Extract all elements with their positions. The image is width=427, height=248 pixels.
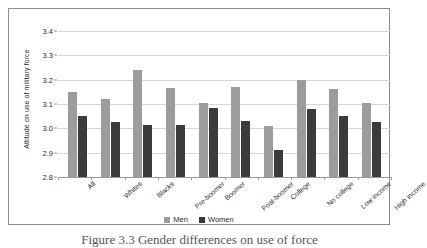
x-axis-label: Blacks bbox=[156, 180, 176, 199]
legend-swatch-icon bbox=[164, 217, 170, 223]
bar-women[interactable] bbox=[274, 150, 283, 177]
bar-men[interactable] bbox=[68, 92, 77, 177]
y-tick-mark bbox=[54, 55, 57, 56]
y-tick-mark bbox=[54, 177, 57, 178]
bar-women[interactable] bbox=[78, 116, 87, 177]
bar-women[interactable] bbox=[111, 122, 120, 177]
y-tick-mark bbox=[54, 31, 57, 32]
bar-group bbox=[159, 31, 192, 177]
bar-men[interactable] bbox=[133, 70, 142, 177]
bar-women[interactable] bbox=[143, 125, 152, 177]
y-tick-mark bbox=[54, 79, 57, 80]
bar-women[interactable] bbox=[307, 109, 316, 177]
legend-swatch-icon bbox=[199, 217, 205, 223]
chart-figure-frame: Attitude on use of military force 3.43.3… bbox=[8, 8, 390, 225]
x-axis-labels: AllWhitesBlacksPre-boomerBoomerPost-boom… bbox=[58, 180, 391, 214]
bar-men[interactable] bbox=[101, 99, 110, 177]
bar-women[interactable] bbox=[339, 116, 348, 177]
bar-men[interactable] bbox=[166, 88, 175, 177]
figure-caption: Figure 3.3 Gender differences on use of … bbox=[0, 232, 399, 248]
x-axis-label: Pre-boomer bbox=[193, 180, 225, 210]
y-tick-label: 2.9 bbox=[43, 148, 53, 157]
bar-women[interactable] bbox=[176, 125, 185, 177]
y-tick-mark bbox=[54, 104, 57, 105]
x-tick-mark bbox=[391, 177, 392, 180]
bar-women[interactable] bbox=[372, 122, 381, 177]
bar-men[interactable] bbox=[199, 103, 208, 177]
y-axis-title: Attitude on use of military force bbox=[21, 29, 33, 169]
y-tick-label: 3.3 bbox=[43, 51, 53, 60]
bar-men[interactable] bbox=[231, 87, 240, 177]
bar-groups-layer bbox=[58, 31, 391, 177]
bar-women[interactable] bbox=[241, 121, 250, 177]
x-axis-label: Whites bbox=[122, 180, 143, 200]
x-axis-label: Boomer bbox=[223, 180, 246, 202]
legend-label: Men bbox=[173, 215, 188, 224]
y-tick-mark bbox=[54, 128, 57, 129]
x-axis-label: All bbox=[86, 180, 96, 190]
x-axis-label: High income bbox=[393, 180, 427, 211]
x-axis-label: Low income bbox=[360, 180, 392, 210]
plot-area: 3.43.33.23.13.02.92.8 bbox=[58, 31, 391, 177]
y-tick-mark bbox=[54, 152, 57, 153]
y-tick-label: 3.1 bbox=[43, 100, 53, 109]
bar-group bbox=[355, 31, 388, 177]
legend-label: Women bbox=[208, 215, 234, 224]
y-tick-label: 2.8 bbox=[43, 173, 53, 182]
y-tick-label: 3.4 bbox=[43, 27, 53, 36]
bar-group bbox=[61, 31, 94, 177]
bar-men[interactable] bbox=[329, 89, 338, 177]
y-tick-label: 3.0 bbox=[43, 124, 53, 133]
bar-group bbox=[94, 31, 127, 177]
bar-men[interactable] bbox=[297, 80, 306, 177]
bar-group bbox=[192, 31, 225, 177]
legend-item-men[interactable]: Men bbox=[164, 215, 188, 224]
bar-group bbox=[290, 31, 323, 177]
bar-men[interactable] bbox=[264, 126, 273, 177]
legend-item-women[interactable]: Women bbox=[199, 215, 234, 224]
bar-group bbox=[257, 31, 290, 177]
y-tick-label: 3.2 bbox=[43, 75, 53, 84]
bar-women[interactable] bbox=[209, 108, 218, 177]
chart-legend: MenWomen bbox=[9, 215, 389, 224]
bar-group bbox=[126, 31, 159, 177]
bar-group bbox=[323, 31, 356, 177]
x-axis-label: No college bbox=[325, 180, 354, 207]
bar-group bbox=[225, 31, 258, 177]
bar-men[interactable] bbox=[362, 103, 371, 177]
